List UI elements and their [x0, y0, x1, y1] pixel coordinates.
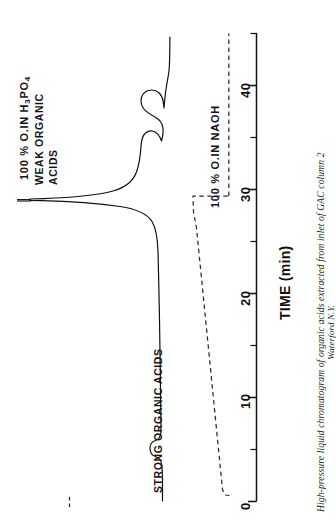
eluent-start-tail: PO [18, 81, 30, 98]
axis-tick-label-0: 0 [238, 502, 253, 510]
weak-organic-acids-label: WEAK ORGANIC ACIDS [33, 93, 60, 185]
axis-tick-label-20: 20 [238, 291, 253, 306]
strong-organic-acids-label: STRONG ORGANIC ACIDS [152, 348, 164, 493]
eluent-start-text: 100 % O.IN H [18, 104, 30, 180]
axis-title: TIME (min) [277, 245, 293, 320]
figure-caption-line2: Waterford N.Y. [326, 152, 336, 512]
figure-caption: High-pressure liquid chromatogram of org… [316, 152, 336, 512]
axis-tick-label-30: 30 [238, 187, 253, 202]
eluent-start-label: 100 % O.IN H3PO4 [18, 76, 32, 180]
gradient-dashed-line [193, 34, 230, 496]
time-axis [248, 33, 257, 502]
eluent-start-subscript-4: 4 [23, 76, 32, 81]
figure-caption-line1: High-pressure liquid chromatogram of org… [316, 152, 326, 512]
axis-tick-label-40: 40 [238, 83, 253, 98]
trace-top-plateau [17, 200, 31, 201]
axis-tick-label-10: 10 [238, 394, 253, 409]
weak-organic-acids-line1: WEAK ORGANIC [33, 93, 47, 185]
eluent-end-label: 100 % O.IN NAOH [209, 105, 221, 208]
eluent-start-subscript-3: 3 [23, 99, 32, 104]
gradient-path-lower [193, 196, 230, 496]
weak-organic-acids-line2: ACIDS [47, 93, 61, 185]
